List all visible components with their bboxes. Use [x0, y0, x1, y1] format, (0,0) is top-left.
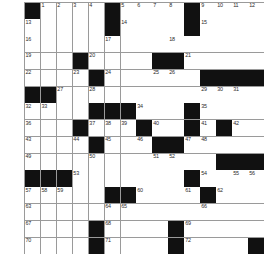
- crossword-cell[interactable]: 17: [105, 36, 120, 52]
- crossword-cell[interactable]: [41, 36, 56, 52]
- crossword-cell[interactable]: [136, 170, 151, 186]
- crossword-cell[interactable]: [232, 137, 247, 153]
- crossword-cell[interactable]: [200, 221, 215, 237]
- crossword-cell[interactable]: 38: [105, 120, 120, 136]
- crossword-cell[interactable]: 64: [105, 204, 120, 220]
- crossword-cell[interactable]: [168, 19, 183, 35]
- crossword-cell[interactable]: [89, 187, 104, 203]
- crossword-cell[interactable]: [232, 36, 247, 52]
- crossword-cell[interactable]: 8: [168, 3, 183, 19]
- crossword-cell[interactable]: [152, 36, 167, 52]
- crossword-cell[interactable]: 71: [105, 238, 120, 254]
- crossword-cell[interactable]: [57, 204, 72, 220]
- crossword-cell[interactable]: [57, 36, 72, 52]
- crossword-cell[interactable]: 24: [105, 70, 120, 86]
- crossword-cell[interactable]: 22: [25, 70, 40, 86]
- crossword-cell[interactable]: [136, 70, 151, 86]
- crossword-cell[interactable]: [136, 19, 151, 35]
- crossword-cell[interactable]: [248, 36, 263, 52]
- crossword-cell[interactable]: 66: [200, 204, 215, 220]
- crossword-cell[interactable]: 57: [25, 187, 40, 203]
- crossword-cell[interactable]: [168, 87, 183, 103]
- crossword-cell[interactable]: [248, 87, 263, 103]
- crossword-cell[interactable]: 21: [184, 53, 199, 69]
- crossword-cell[interactable]: 72: [184, 238, 199, 254]
- crossword-cell[interactable]: [168, 170, 183, 186]
- crossword-cell[interactable]: [136, 53, 151, 69]
- crossword-cell[interactable]: [232, 221, 247, 237]
- crossword-cell[interactable]: [89, 170, 104, 186]
- crossword-cell[interactable]: [73, 19, 88, 35]
- crossword-cell[interactable]: 2: [57, 3, 72, 19]
- crossword-cell[interactable]: [57, 70, 72, 86]
- crossword-cell[interactable]: [121, 170, 136, 186]
- crossword-cell[interactable]: 3: [73, 3, 88, 19]
- crossword-cell[interactable]: [89, 204, 104, 220]
- crossword-cell[interactable]: [248, 103, 263, 119]
- crossword-cell[interactable]: [41, 53, 56, 69]
- crossword-cell[interactable]: 28: [89, 87, 104, 103]
- crossword-cell[interactable]: [89, 19, 104, 35]
- crossword-cell[interactable]: [216, 137, 231, 153]
- crossword-cell[interactable]: [216, 36, 231, 52]
- crossword-cell[interactable]: [216, 204, 231, 220]
- crossword-cell[interactable]: [57, 103, 72, 119]
- crossword-cell[interactable]: 43: [25, 137, 40, 153]
- crossword-cell[interactable]: [168, 204, 183, 220]
- crossword-cell[interactable]: 23: [73, 70, 88, 86]
- crossword-cell[interactable]: 52: [168, 154, 183, 170]
- crossword-cell[interactable]: 65: [121, 204, 136, 220]
- crossword-cell[interactable]: 4: [89, 3, 104, 19]
- crossword-cell[interactable]: [232, 204, 247, 220]
- crossword-cell[interactable]: 14: [121, 19, 136, 35]
- crossword-cell[interactable]: [232, 187, 247, 203]
- crossword-cell[interactable]: 37: [89, 120, 104, 136]
- crossword-cell[interactable]: 58: [41, 187, 56, 203]
- crossword-cell[interactable]: 69: [184, 221, 199, 237]
- crossword-cell[interactable]: [89, 36, 104, 52]
- crossword-cell[interactable]: 10: [216, 3, 231, 19]
- crossword-cell[interactable]: [216, 53, 231, 69]
- crossword-cell[interactable]: [41, 120, 56, 136]
- crossword-cell[interactable]: [41, 19, 56, 35]
- crossword-cell[interactable]: 11: [232, 3, 247, 19]
- crossword-cell[interactable]: [216, 170, 231, 186]
- crossword-cell[interactable]: 33: [41, 103, 56, 119]
- crossword-cell[interactable]: 6: [136, 3, 151, 19]
- crossword-cell[interactable]: [248, 204, 263, 220]
- crossword-cell[interactable]: 63: [25, 204, 40, 220]
- crossword-cell[interactable]: [232, 19, 247, 35]
- crossword-cell[interactable]: 41: [200, 120, 215, 136]
- crossword-cell[interactable]: 42: [232, 120, 247, 136]
- crossword-cell[interactable]: [216, 103, 231, 119]
- crossword-cell[interactable]: 61: [184, 187, 199, 203]
- crossword-cell[interactable]: 19: [25, 53, 40, 69]
- crossword-cell[interactable]: 30: [216, 87, 231, 103]
- crossword-cell[interactable]: [168, 120, 183, 136]
- crossword-cell[interactable]: 39: [121, 120, 136, 136]
- crossword-cell[interactable]: 44: [73, 137, 88, 153]
- crossword-cell[interactable]: 68: [105, 221, 120, 237]
- crossword-cell[interactable]: [152, 103, 167, 119]
- crossword-cell[interactable]: [248, 137, 263, 153]
- crossword-cell[interactable]: 26: [168, 70, 183, 86]
- crossword-cell[interactable]: 50: [89, 154, 104, 170]
- crossword-cell[interactable]: 25: [152, 70, 167, 86]
- crossword-cell[interactable]: [136, 154, 151, 170]
- crossword-cell[interactable]: [168, 103, 183, 119]
- crossword-cell[interactable]: [200, 53, 215, 69]
- crossword-cell[interactable]: 67: [25, 221, 40, 237]
- crossword-cell[interactable]: 18: [168, 36, 183, 52]
- crossword-cell[interactable]: [216, 238, 231, 254]
- crossword-cell[interactable]: [105, 154, 120, 170]
- crossword-cell[interactable]: [121, 87, 136, 103]
- crossword-cell[interactable]: [121, 221, 136, 237]
- crossword-cell[interactable]: [216, 19, 231, 35]
- crossword-cell[interactable]: 1: [41, 3, 56, 19]
- crossword-cell[interactable]: 7: [152, 3, 167, 19]
- crossword-cell[interactable]: [121, 36, 136, 52]
- crossword-cell[interactable]: 36: [25, 120, 40, 136]
- crossword-cell[interactable]: 13: [25, 19, 40, 35]
- crossword-cell[interactable]: [41, 154, 56, 170]
- crossword-cell[interactable]: [121, 70, 136, 86]
